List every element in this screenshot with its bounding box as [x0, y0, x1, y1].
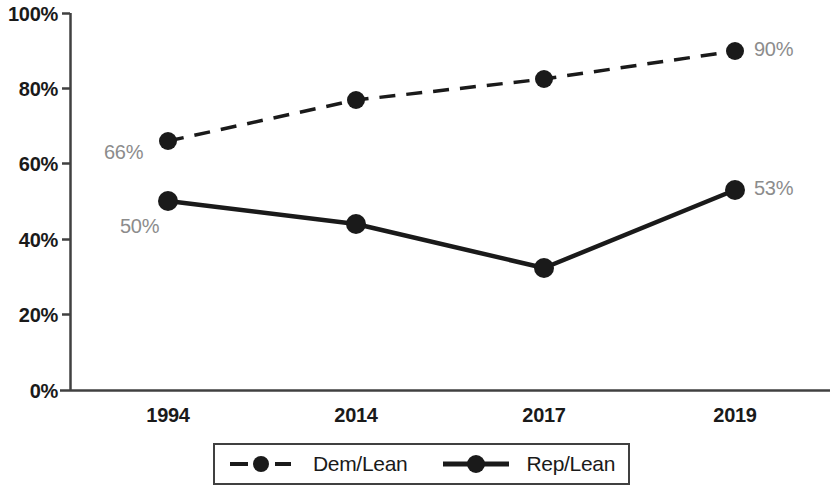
- series-point-rep-2019: [725, 180, 745, 200]
- legend-item-rep-lean[interactable]: Rep/Lean: [441, 452, 615, 476]
- series-point-rep-1994: [158, 191, 178, 211]
- series-line-dem-lean: [168, 51, 735, 141]
- series-point-rep-2017: [534, 258, 554, 278]
- chart-legend: Dem/Lean Rep/Lean: [213, 443, 630, 485]
- line-chart: 100% 80% 60% 40% 20% 0% 1994 2014 2017 2…: [0, 0, 830, 491]
- series-point-dem-2014: [347, 91, 365, 109]
- series-point-dem-1994: [159, 132, 177, 150]
- legend-item-dem-lean[interactable]: Dem/Lean: [228, 452, 408, 476]
- plot-area: [0, 0, 830, 491]
- series-line-rep-lean: [168, 190, 735, 268]
- legend-swatch-dashed-icon: [228, 454, 306, 474]
- legend-swatch-solid-icon: [441, 454, 519, 474]
- series-point-rep-2014: [346, 214, 366, 234]
- series-point-dem-2019: [726, 42, 744, 60]
- legend-label-dem-lean: Dem/Lean: [313, 452, 408, 476]
- legend-label-rep-lean: Rep/Lean: [526, 452, 615, 476]
- series-point-dem-2017: [535, 70, 553, 88]
